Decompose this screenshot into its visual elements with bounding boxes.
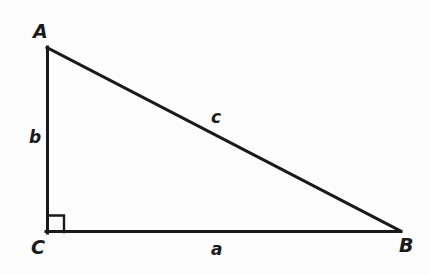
right-angle-marker-icon [48,216,65,233]
side-label-b: b [29,129,41,146]
right-triangle-diagram: A B C a b c [0,0,430,275]
side-label-a: a [211,241,222,258]
triangle-side-c-line [47,48,401,232]
side-label-c: c [211,109,221,126]
triangle-svg-canvas [0,0,430,275]
vertex-label-b: B [399,236,413,255]
vertex-label-a: A [33,22,48,41]
vertex-label-c: C [31,238,45,257]
